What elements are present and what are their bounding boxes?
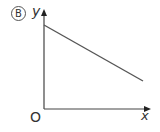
graph-canvas [0,0,160,132]
x-axis-arrow-icon [144,106,151,112]
y-axis-arrow-icon [41,9,47,16]
decreasing-line [44,25,143,81]
